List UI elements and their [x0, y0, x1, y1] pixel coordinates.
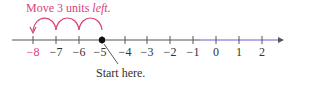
- title-text: Move 3 units: [26, 1, 92, 15]
- tick-label: 1: [236, 45, 242, 60]
- start-point: [99, 37, 105, 43]
- tick-label: −7: [50, 45, 63, 60]
- tick-label: −8: [27, 45, 40, 60]
- start-label: Start here.: [96, 66, 145, 81]
- instruction-title: Move 3 units left.: [26, 1, 111, 16]
- tick-label: −4: [119, 45, 132, 60]
- tick-label: −6: [73, 45, 86, 60]
- tick-label: 0: [213, 45, 219, 60]
- tick-label: −3: [141, 45, 154, 60]
- axis-arrow-icon: [278, 37, 284, 43]
- title-emphasis: left.: [92, 1, 110, 15]
- jump-arcs: [33, 18, 102, 31]
- tick-label: −2: [164, 45, 177, 60]
- tick-label: 2: [259, 45, 265, 60]
- tick-label: −1: [187, 45, 200, 60]
- tick-label: −5: [94, 45, 107, 60]
